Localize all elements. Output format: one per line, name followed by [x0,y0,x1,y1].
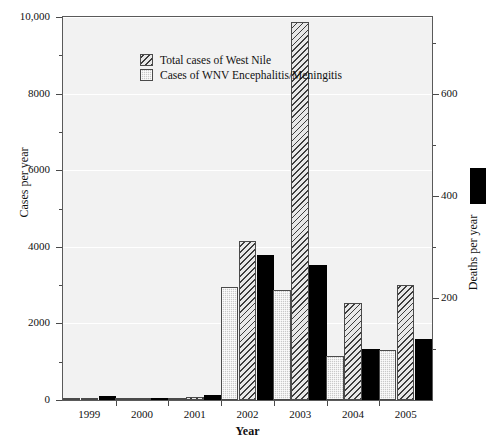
bar-encephalitis-2004 [326,356,344,400]
y2-axis-title: Deaths per year [466,193,481,313]
y-tick-label-8000: 8000 [28,88,50,99]
y2-tick-label-600: 600 [441,88,458,99]
x-tick-label-2002: 2002 [218,408,278,420]
x-tick-label-2003: 2003 [270,408,330,420]
y2-tick-400 [433,196,439,197]
bar-encephalitis-2001 [168,398,186,400]
bar-deaths-2002 [257,255,275,400]
y-tick-left-minor-3000 [59,285,62,286]
bar-deaths-2000 [151,398,169,400]
y-tick-left-6000 [56,170,62,171]
bar-total-cases-2004 [344,303,362,400]
bar-encephalitis-2005 [379,350,397,400]
y-tick-label-2000: 2000 [28,317,50,328]
plot-area: Total cases of West Nile Cases of WNV En… [62,16,433,401]
y-tick-left-8000 [56,94,62,95]
y-tick-left-4000 [56,247,62,248]
y2-tick-200 [433,298,439,299]
bar-group-2005 [379,17,433,400]
bar-deaths-1999 [99,396,117,400]
y-tick-left-10000 [56,17,62,18]
y-tick-left-minor-9000 [59,55,62,56]
legend-swatch-total-cases-icon [140,54,153,66]
y2-tick-label-200: 200 [441,292,458,303]
y-axis-title: Cases per year [17,123,32,243]
bar-group-1999 [63,17,117,400]
x-tick-label-2001: 2001 [165,408,225,420]
y2-tick-minor-100 [433,349,436,350]
bar-total-cases-2001 [186,397,204,400]
bar-encephalitis-2003 [273,290,291,400]
y2-tick-minor-300 [433,247,436,248]
bar-encephalitis-2000 [115,398,133,400]
bar-deaths-2004 [362,349,380,400]
bar-total-cases-2005 [397,285,415,400]
west-nile-virus-bar-chart: Cases per year Deaths per year Year Tota… [0,0,499,442]
bar-total-cases-2000 [133,398,151,400]
x-tick-2 [168,401,169,406]
x-tick-5 [327,401,328,406]
x-tick-1 [116,401,117,406]
y2-tick-minor-700 [433,43,436,44]
chart-legend: Total cases of West Nile Cases of WNV En… [140,54,342,84]
bar-encephalitis-2002 [221,287,239,400]
y-tick-left-0 [56,400,62,401]
x-tick-label-2005: 2005 [376,408,436,420]
y-tick-label-10000: 10,000 [20,11,50,22]
y-tick-label-6000: 6000 [28,164,50,175]
y-tick-label-0: 0 [45,394,51,405]
legend-label-encephalitis: Cases of WNV Encephalitis/Meningitis [160,69,342,81]
deaths-legend-swatch-icon [470,168,486,204]
x-tick-label-1999: 1999 [59,408,119,420]
legend-item-total-cases: Total cases of West Nile [140,54,342,66]
y-tick-left-minor-5000 [59,209,62,210]
y-tick-label-4000: 4000 [28,241,50,252]
bar-total-cases-2002 [239,241,257,400]
bar-deaths-2001 [204,395,222,400]
y-tick-left-minor-1000 [59,362,62,363]
x-tick-label-2000: 2000 [112,408,172,420]
bar-encephalitis-1999 [63,398,81,400]
y2-tick-label-400: 400 [441,190,458,201]
x-tick-3 [221,401,222,406]
bar-deaths-2005 [415,339,433,400]
x-tick-6 [379,401,380,406]
legend-label-total-cases: Total cases of West Nile [160,54,271,66]
y2-tick-600 [433,94,439,95]
legend-swatch-encephalitis-icon [140,69,153,81]
bar-deaths-2003 [309,265,327,400]
y-tick-left-minor-7000 [59,132,62,133]
y2-tick-minor-500 [433,145,436,146]
legend-item-encephalitis: Cases of WNV Encephalitis/Meningitis [140,69,342,81]
x-axis-title: Year [62,424,433,439]
y-tick-left-2000 [56,323,62,324]
x-tick-label-2004: 2004 [323,408,383,420]
x-tick-4 [274,401,275,406]
bar-total-cases-1999 [81,398,99,400]
